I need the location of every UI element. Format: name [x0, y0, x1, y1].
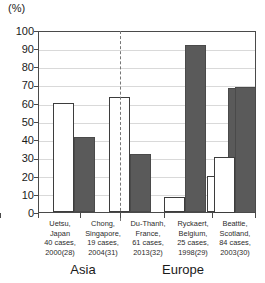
y-tick-label-60: 60 [2, 99, 34, 110]
x-category-label-beattie: Beattie, Scotland, 84 cases, 2003(30) [205, 219, 265, 257]
y-tick-label-80: 80 [2, 62, 34, 73]
region-label-europe: Europe [140, 263, 226, 277]
region-divider [120, 31, 121, 221]
x-category-label-beattie-line4: 2003(30) [205, 248, 265, 258]
y-tick-label-0: 0 [2, 208, 34, 219]
y-tick-label-50: 50 [2, 117, 34, 128]
y-tick-label-100: 100 [2, 26, 34, 37]
x-tick-mark-4 [212, 213, 213, 218]
y-tick-label-90: 90 [2, 44, 34, 55]
y-tick-label-40: 40 [2, 135, 34, 146]
beattie-group [38, 31, 256, 213]
x-tick-mark-right-edge [255, 213, 256, 218]
bar-beattie-white [214, 157, 235, 213]
x-category-label-beattie-line2: Scotland, [205, 229, 265, 239]
bar-beattie-gray [235, 87, 256, 213]
y-tick-label-20: 20 [2, 172, 34, 183]
x-tick-mark-1 [80, 213, 81, 218]
x-tick-mark-left-edge [38, 213, 39, 218]
y-tick-label-30: 30 [2, 153, 34, 164]
x-tick-mark-3 [164, 213, 165, 218]
bar-chart-figure: (%) 100 90 80 70 60 50 40 30 20 10 0 [0, 0, 265, 283]
y-tick-label-70: 70 [2, 80, 34, 91]
y-tick-label-10: 10 [2, 190, 34, 201]
x-tick-mark-2 [120, 213, 121, 218]
x-tick-mark-unused [0, 213, 1, 218]
x-category-label-beattie-line3: 84 cases, [205, 238, 265, 248]
region-label-asia: Asia [50, 263, 116, 277]
x-category-label-beattie-line1: Beattie, [205, 219, 265, 229]
